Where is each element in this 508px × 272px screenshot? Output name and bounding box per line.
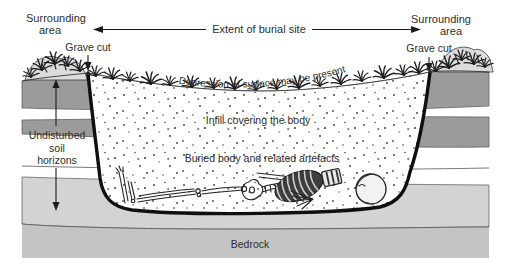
- label-surrounding-area-right: Surrounding: [411, 13, 471, 25]
- label-grave-cut-right: Grave cut: [406, 42, 452, 54]
- label-undisturbed-2: soil: [49, 142, 65, 154]
- label-grave-cut-left: Grave cut: [65, 41, 111, 53]
- diagram-canvas: Surrounding area Extent of burial site S…: [0, 0, 508, 272]
- label-undisturbed-1: Undisturbed: [29, 129, 86, 141]
- burial-site-diagram: Surrounding area Extent of burial site S…: [0, 0, 508, 272]
- label-extent-of-burial-site: Extent of burial site: [212, 23, 306, 35]
- label-buried-body: Buried body and related artefacts: [185, 152, 340, 164]
- artefact: [321, 168, 342, 186]
- label-surrounding-area-right-2: area: [440, 25, 463, 37]
- grave-cut-arrow-left: [85, 55, 92, 71]
- label-undisturbed-3: horizons: [37, 154, 77, 166]
- label-bedrock: Bedrock: [231, 238, 270, 250]
- label-surrounding-area-left: Surrounding: [26, 12, 86, 24]
- label-surrounding-area-left-2: area: [39, 24, 62, 36]
- label-infill: Infill covering the body: [206, 114, 311, 126]
